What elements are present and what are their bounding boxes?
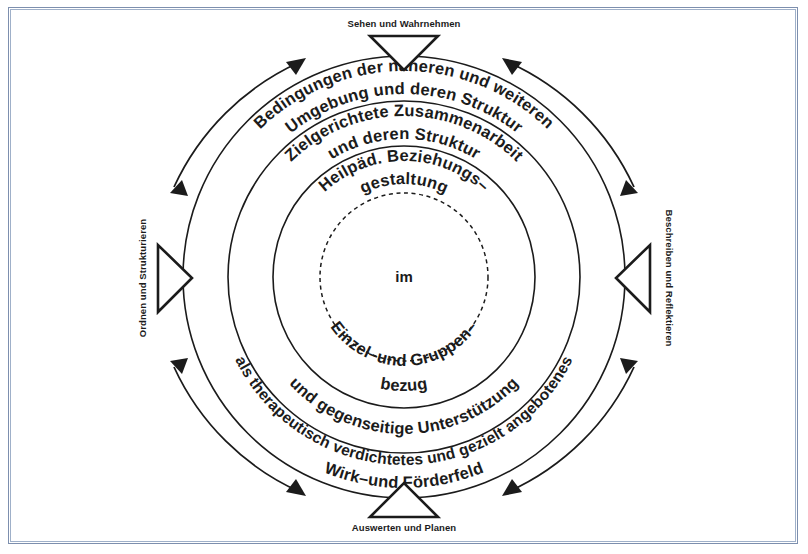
arrow-upper-right-head-bottom [620, 180, 638, 196]
arrow-upper-left [170, 58, 306, 196]
concentric-circles-diagram: Bedingungen der näheren und weiteren Umg… [0, 0, 808, 554]
axis-label-bottom: Auswerten und Planen [352, 522, 457, 533]
axis-label-top: Sehen und Wahrnehmen [347, 18, 460, 29]
diagram-canvas: Bedingungen der näheren und weiteren Umg… [0, 0, 808, 554]
arrow-lower-left-head-top [170, 358, 188, 374]
arrow-lower-right-head-top [620, 358, 638, 374]
axis-triangle-right [616, 245, 650, 312]
arrow-lower-right [502, 358, 638, 496]
ring-outer-bottom-line-1: als therapeutisch verdichtetes und gezie… [232, 353, 575, 468]
center-label: im [395, 268, 413, 285]
ring-inner-bottom-line-1: Einzel–und Gruppen– [328, 318, 481, 369]
ring-inner-bottom-line-2: bezug [379, 374, 428, 394]
ring-inner-top-line-2: gestaltung [357, 169, 451, 196]
arrow-lower-left [170, 358, 306, 496]
arrow-upper-left-head-bottom [170, 180, 188, 196]
axis-triangle-left [158, 245, 192, 312]
axis-label-left: Ordnen und Strukturieren [137, 219, 148, 338]
axis-label-right: Beschreiben und Reflektieren [664, 210, 675, 347]
